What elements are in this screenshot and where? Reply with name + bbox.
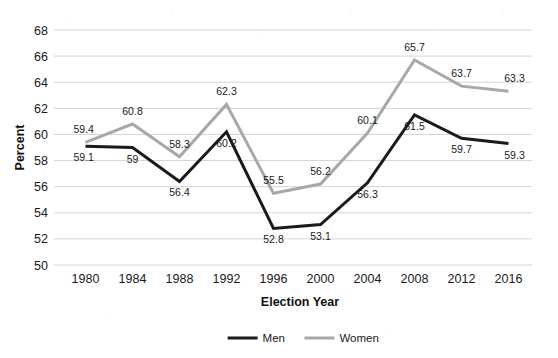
y-axis-tick-label: 56	[34, 180, 48, 194]
y-axis-tick-labels: 50525456586062646668	[34, 24, 48, 273]
legend-label-women[interactable]: Women	[339, 332, 378, 344]
data-point-label: 63.3	[504, 72, 525, 84]
data-point-label: 58.3	[169, 138, 190, 150]
data-series-lines	[86, 60, 509, 228]
x-axis-tick-label: 1996	[260, 272, 288, 286]
x-axis-tick-labels: 1980198419881992199620002004200820122016	[72, 272, 523, 286]
y-axis-tick-label: 64	[34, 76, 48, 90]
y-axis-tick-label: 62	[34, 102, 48, 116]
data-point-label: 60.1	[357, 114, 378, 126]
data-point-label: 60.8	[122, 105, 143, 117]
y-axis-tick-label: 60	[34, 128, 48, 142]
data-point-label: 52.8	[263, 233, 284, 245]
y-axis-title: Percent	[13, 124, 27, 171]
series-line-women	[86, 60, 509, 193]
x-axis-tick-label: 2016	[495, 272, 523, 286]
data-point-label: 60.2	[216, 137, 237, 149]
chart-canvas: 50525456586062646668 1980198419881992199…	[0, 0, 558, 358]
data-point-label: 65.7	[404, 41, 425, 53]
data-point-label: 59.4	[74, 123, 95, 135]
y-axis-tick-label: 50	[34, 259, 48, 273]
chart-legend: MenWomen	[228, 332, 379, 344]
data-point-label: 61.5	[404, 120, 425, 132]
data-point-label: 53.1	[310, 230, 331, 242]
y-axis-tick-label: 58	[34, 154, 48, 168]
data-point-label: 56.4	[169, 186, 190, 198]
data-point-label: 62.3	[216, 85, 237, 97]
data-point-label: 59.1	[74, 151, 95, 163]
line-chart-figure: 50525456586062646668 1980198419881992199…	[0, 0, 558, 358]
y-axis-tick-label: 68	[34, 24, 48, 38]
x-axis-title: Election Year	[261, 295, 339, 309]
data-point-label: 59	[127, 153, 139, 165]
series-line-men	[86, 115, 509, 229]
data-point-label: 59.3	[504, 149, 525, 161]
data-point-label: 56.2	[310, 165, 331, 177]
x-axis-tick-label: 1980	[72, 272, 100, 286]
y-axis-tick-label: 54	[34, 206, 48, 220]
data-point-label: 55.5	[263, 174, 284, 186]
x-axis-tick-label: 2008	[401, 272, 429, 286]
x-axis-tick-label: 2012	[448, 272, 476, 286]
data-point-label: 63.7	[451, 67, 472, 79]
legend-label-men[interactable]: Men	[263, 332, 285, 344]
y-axis-tick-label: 52	[34, 232, 48, 246]
x-axis-tick-label: 1992	[213, 272, 241, 286]
data-point-label: 59.7	[451, 143, 472, 155]
data-point-labels: 59.15956.460.252.853.156.361.559.759.359…	[74, 41, 525, 245]
x-axis-tick-label: 1984	[119, 272, 147, 286]
x-axis-tick-label: 2004	[354, 272, 382, 286]
x-axis-tick-label: 1988	[166, 272, 194, 286]
y-axis-tick-label: 66	[34, 50, 48, 64]
x-axis-tick-label: 2000	[307, 272, 335, 286]
data-point-label: 56.3	[357, 188, 378, 200]
